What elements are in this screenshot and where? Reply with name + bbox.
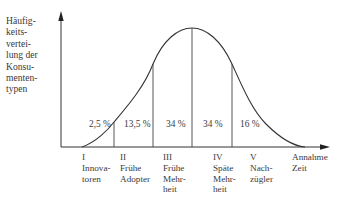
- y-label-line: menten-: [6, 72, 58, 83]
- category-name-line: Nach-: [250, 163, 273, 174]
- category-early-majority: III Frühe Mehr- heit: [163, 152, 186, 195]
- category-name-line: Adopter: [120, 174, 150, 185]
- category-name-line: Innova-: [82, 163, 111, 174]
- y-label-line: typen: [6, 83, 58, 94]
- category-name-line: zügler: [250, 174, 273, 185]
- category-early-adopters: II Frühe Adopter: [120, 152, 150, 184]
- category-name-line: Späte: [213, 163, 236, 174]
- x-axis-label: Annahme Zeit: [292, 152, 328, 174]
- category-name-line: heit: [163, 184, 186, 195]
- percent-early-adopters: 13,5 %: [124, 119, 151, 129]
- category-numeral: IV: [213, 152, 236, 163]
- category-laggards: V Nach- zügler: [250, 152, 273, 184]
- category-numeral: I: [82, 152, 111, 163]
- category-numeral: III: [163, 152, 186, 163]
- y-label-line: keits-: [6, 26, 58, 37]
- percent-laggards: 16 %: [240, 119, 260, 129]
- category-name-line: Frühe: [120, 163, 150, 174]
- x-axis-arrow-icon: [320, 144, 330, 149]
- bell-curve: [82, 28, 305, 147]
- category-numeral: II: [120, 152, 150, 163]
- percent-late-majority: 34 %: [203, 119, 223, 129]
- category-name-line: Frühe: [163, 163, 186, 174]
- x-label-line: Zeit: [292, 163, 328, 174]
- y-axis-arrow-icon: [58, 11, 63, 21]
- percent-innovators: 2,5 %: [89, 119, 111, 129]
- y-label-line: Häufig-: [6, 15, 58, 26]
- category-numeral: V: [250, 152, 273, 163]
- category-innovators: I Innova- toren: [82, 152, 111, 184]
- category-name-line: Mehr-: [163, 174, 186, 185]
- percent-early-majority: 34 %: [166, 119, 186, 129]
- y-label-line: lung der: [6, 49, 58, 60]
- category-name-line: heit: [213, 184, 236, 195]
- x-label-line: Annahme: [292, 152, 328, 163]
- category-late-majority: IV Späte Mehr- heit: [213, 152, 236, 195]
- y-label-line: Konsu-: [6, 61, 58, 72]
- category-name-line: Mehr-: [213, 174, 236, 185]
- y-axis-label: Häufig- keits- vertei- lung der Konsu- m…: [6, 15, 58, 95]
- category-name-line: toren: [82, 174, 111, 185]
- y-label-line: vertei-: [6, 38, 58, 49]
